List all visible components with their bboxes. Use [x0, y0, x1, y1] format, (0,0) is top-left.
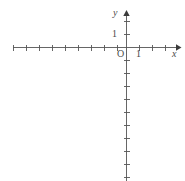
coordinate-axes-figure: y x O 1 1 — [0, 0, 185, 181]
y-axis-label: y — [113, 8, 117, 18]
x-axis-tick-label-one: 1 — [136, 49, 141, 59]
origin-label: O — [117, 49, 124, 59]
x-axis-arrowhead — [176, 44, 182, 50]
y-axis-tick-label-one: 1 — [112, 29, 117, 39]
axis-lines — [13, 15, 177, 181]
axes-drawing — [0, 0, 185, 181]
y-axis-arrowhead — [123, 10, 129, 16]
x-axis-label: x — [172, 49, 176, 59]
